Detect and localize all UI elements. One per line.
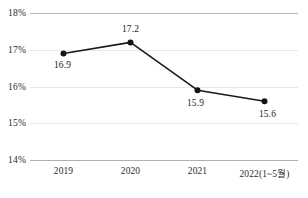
data-point-label: 15.9 [187,98,204,108]
x-tick-label: 2019 [54,166,73,176]
series-line [64,42,265,101]
data-point-label: 15.6 [259,109,276,119]
x-tick-label: 2022(1~5월) [240,166,290,180]
x-axis: 2019202020212022(1~5월) [0,166,308,186]
data-point-label: 17.2 [122,24,139,34]
line-chart: 18%17%16%15%14% 2019202020212022(1~5월) 1… [0,0,308,198]
x-tick-label: 2020 [121,166,140,176]
data-point-marker [262,98,268,104]
x-tick-label: 2021 [188,166,207,176]
data-point-marker [128,39,134,45]
data-point-marker [61,50,67,56]
data-point-marker [195,87,201,93]
data-point-label: 16.9 [54,60,71,70]
